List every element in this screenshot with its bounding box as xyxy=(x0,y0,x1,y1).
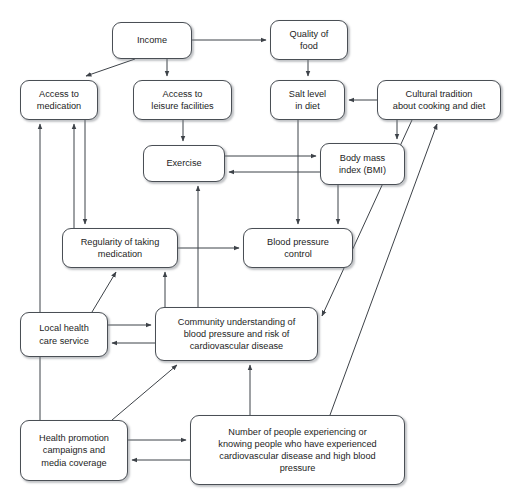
node-label: Access to leisure facilities xyxy=(151,88,213,112)
node-regularity-of-taking-medication[interactable]: Regularity of taking medication xyxy=(62,228,178,268)
edge-local-health-to-regularity xyxy=(92,272,116,312)
edge-health-promotion-to-community xyxy=(112,365,177,420)
node-label: Salt level in diet xyxy=(289,88,326,112)
node-label: Number of people experiencing or knowing… xyxy=(218,426,376,475)
node-label: Community understanding of blood pressur… xyxy=(178,316,295,352)
node-local-health-care-service[interactable]: Local health care service xyxy=(20,312,108,357)
node-access-leisure-facilities[interactable]: Access to leisure facilities xyxy=(133,80,232,120)
node-number-of-people-experiencing[interactable]: Number of people experiencing or knowing… xyxy=(190,415,405,485)
node-label: Cultural tradition about cooking and die… xyxy=(393,88,485,112)
node-label: Quality of food xyxy=(290,28,329,52)
diagram-canvas: Income Quality of food Access to medicat… xyxy=(0,0,517,503)
node-exercise[interactable]: Exercise xyxy=(143,145,225,182)
node-label: Health promotion campaigns and media cov… xyxy=(39,432,109,468)
node-label: Regularity of taking medication xyxy=(81,236,160,260)
node-label: Income xyxy=(137,34,167,46)
node-access-medication[interactable]: Access to medication xyxy=(20,80,98,120)
node-label: Exercise xyxy=(166,157,201,169)
node-community-understanding[interactable]: Community understanding of blood pressur… xyxy=(155,307,318,361)
node-health-promotion-campaigns[interactable]: Health promotion campaigns and media cov… xyxy=(20,420,128,481)
node-cultural-tradition[interactable]: Cultural tradition about cooking and die… xyxy=(377,80,501,120)
node-label: Local health care service xyxy=(39,322,89,346)
node-label: Blood pressure control xyxy=(267,236,329,260)
node-label: Body mass index (BMI) xyxy=(339,152,386,176)
node-income[interactable]: Income xyxy=(112,22,192,59)
node-label: Access to medication xyxy=(37,88,81,112)
node-salt-level-in-diet[interactable]: Salt level in diet xyxy=(270,80,345,120)
node-quality-of-food[interactable]: Quality of food xyxy=(270,20,348,60)
node-blood-pressure-control[interactable]: Blood pressure control xyxy=(243,228,353,268)
node-body-mass-index[interactable]: Body mass index (BMI) xyxy=(320,143,405,185)
edge-income-to-access-medication xyxy=(86,59,135,76)
